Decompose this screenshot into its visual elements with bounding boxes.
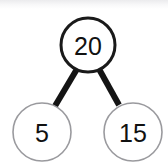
whole-value: 20 — [74, 32, 102, 60]
part-value-right: 15 — [119, 119, 147, 147]
connector-line-right — [99, 69, 119, 105]
part-value-left: 5 — [35, 119, 49, 147]
diagram-canvas: 20 5 15 — [0, 0, 168, 163]
number-bond-diagram: 20 5 15 — [0, 0, 168, 163]
connector-line-left — [55, 69, 77, 106]
